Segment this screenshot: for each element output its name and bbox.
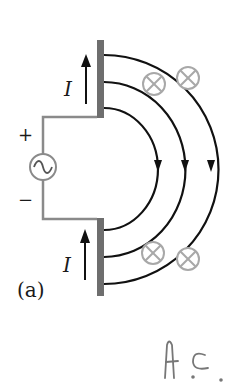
- ac-source: [30, 154, 56, 180]
- circle-cross-icon: [142, 242, 164, 264]
- field-line-middle: [104, 82, 185, 257]
- circle-cross-icon: [177, 67, 199, 89]
- upper-plate: [97, 40, 104, 118]
- circle-cross-icon: [143, 73, 165, 95]
- arrow-down-icon: [181, 160, 189, 172]
- arrow-down-icon: [207, 160, 215, 172]
- plus-sign: +: [18, 124, 33, 145]
- circle-cross-icon: [177, 248, 199, 270]
- panel-label: (a): [17, 278, 45, 302]
- field-arrowheads: [154, 160, 215, 172]
- handwritten-note-text: A.C.: [0, 0, 3, 1]
- arrow-down-icon: [154, 160, 162, 172]
- current-label-upper: I: [63, 77, 73, 101]
- lower-plate: [97, 218, 104, 296]
- field-line-inner: [104, 108, 158, 230]
- minus-sign: −: [18, 189, 33, 210]
- current-arrow-lower: [80, 229, 90, 280]
- current-arrow-upper: [81, 54, 91, 104]
- capacitor-field-diagram: + − I I: [0, 0, 242, 388]
- current-label-lower: I: [62, 253, 72, 277]
- handwritten-note: [165, 342, 222, 381]
